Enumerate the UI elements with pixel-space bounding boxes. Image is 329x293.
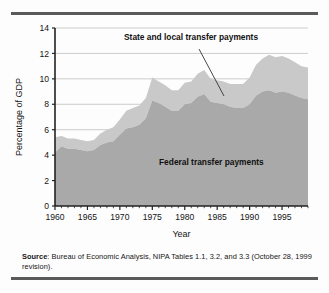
y-tick-label-0: 0	[44, 201, 49, 211]
stacked-area-chart: 0246810121419601965197019751980198519901…	[11, 18, 318, 243]
state-local-label: State and local transfer payments	[124, 32, 258, 42]
y-tick-label-14: 14	[39, 23, 49, 33]
y-tick-label-4: 4	[44, 150, 49, 160]
x-tick-label-1975: 1975	[143, 212, 162, 222]
source-text: : Bureau of Economic Analysis, NIPA Tabl…	[22, 252, 312, 271]
x-axis-title: Year	[172, 229, 190, 239]
chart-area: 0246810121419601965197019751980198519901…	[11, 18, 318, 243]
x-tick-label-1985: 1985	[208, 212, 227, 222]
y-tick-label-12: 12	[39, 49, 49, 59]
x-tick-label-1960: 1960	[45, 212, 64, 222]
x-tick-label-1980: 1980	[175, 212, 194, 222]
y-tick-label-6: 6	[44, 125, 49, 135]
x-tick-label-1995: 1995	[272, 212, 291, 222]
x-tick-label-1990: 1990	[240, 212, 259, 222]
y-tick-label-8: 8	[44, 99, 49, 109]
federal-label: Federal transfer payments	[159, 157, 264, 167]
top-rule	[11, 12, 318, 15]
x-tick-label-1970: 1970	[110, 212, 129, 222]
figure-container: 0246810121419601965197019751980198519901…	[0, 0, 329, 293]
y-axis-title: Percentage of GDP	[14, 78, 24, 156]
y-tick-label-10: 10	[39, 74, 49, 84]
bottom-rule	[11, 277, 318, 280]
x-tick-label-1965: 1965	[78, 212, 97, 222]
source-label: Source	[22, 252, 47, 261]
y-tick-label-2: 2	[44, 176, 49, 186]
source-note: Source: Bureau of Economic Analysis, NIP…	[22, 252, 312, 271]
